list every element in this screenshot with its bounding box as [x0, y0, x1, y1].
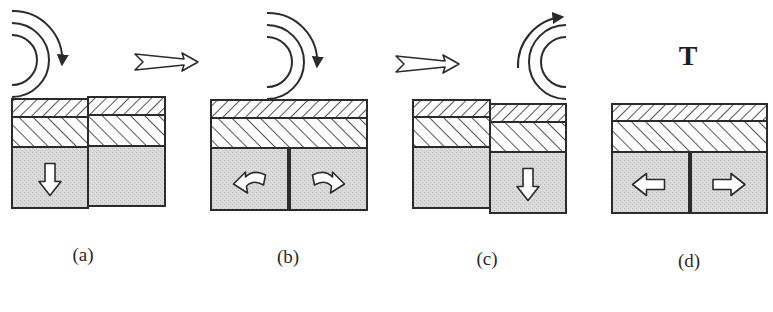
transition-arrow-icon-2 [396, 55, 459, 73]
blocks [12, 97, 767, 213]
roller-b [267, 13, 317, 100]
roller-c [518, 17, 566, 100]
rollers [12, 11, 566, 100]
transition-arrows [135, 53, 459, 73]
transition-arrow-icon-1 [135, 53, 198, 71]
panel-label-a: (a) [72, 244, 93, 266]
panel-label-d: (d) [678, 250, 700, 272]
panel-label-c: (c) [476, 248, 497, 270]
panel-label-b: (b) [277, 246, 299, 268]
t-symbol: T [679, 40, 698, 72]
roller-a [12, 11, 62, 98]
diagram-canvas [0, 0, 773, 312]
